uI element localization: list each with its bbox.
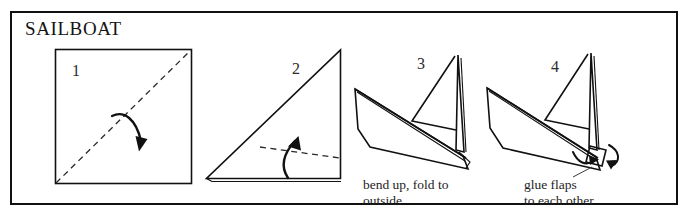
step-4-caption: glue flaps to each other	[524, 177, 594, 208]
step-number-2: 2	[292, 60, 300, 78]
sailboat-instruction-sheet: SAILBOAT	[0, 0, 689, 217]
step-number-3: 3	[417, 55, 425, 73]
step-number-1: 1	[72, 62, 80, 80]
page-title: SAILBOAT	[25, 18, 122, 40]
step-3-caption: bend up, fold to outside	[363, 177, 449, 208]
diagram-border	[10, 11, 678, 205]
step-number-4: 4	[551, 58, 559, 76]
